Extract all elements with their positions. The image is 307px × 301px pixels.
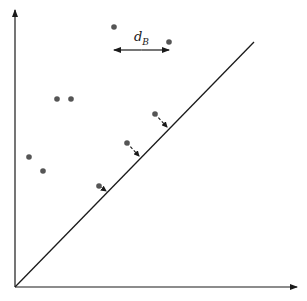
projections bbox=[99, 114, 167, 191]
data-point bbox=[26, 154, 32, 160]
axes bbox=[15, 10, 297, 287]
data-point bbox=[124, 140, 130, 146]
data-point bbox=[96, 183, 102, 189]
data-point bbox=[54, 96, 60, 102]
data-point bbox=[40, 168, 46, 174]
distance-label: dB bbox=[134, 29, 149, 47]
points bbox=[26, 24, 172, 189]
data-point bbox=[68, 96, 74, 102]
data-point bbox=[166, 39, 172, 45]
data-point bbox=[152, 111, 158, 117]
diagram-canvas: dB bbox=[0, 0, 307, 301]
label-sub: B bbox=[142, 37, 149, 47]
diagram-svg bbox=[0, 0, 307, 301]
diagonal bbox=[15, 42, 254, 287]
data-point bbox=[111, 24, 117, 30]
diagonal-line bbox=[15, 42, 254, 287]
